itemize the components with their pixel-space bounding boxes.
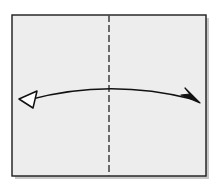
origami-fold-diagram: Fold paper in half Rectangular sheet of … — [0, 0, 217, 185]
diagram-canvas: Rectangular sheet of paper Dashed vertic… — [0, 0, 217, 185]
